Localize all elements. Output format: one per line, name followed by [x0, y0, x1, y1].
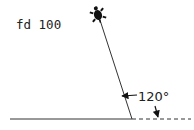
- turtle-angle-diagram: fd 100 120°: [0, 0, 194, 130]
- command-label: fd 100: [16, 17, 61, 32]
- angle-label: 120°: [138, 89, 169, 104]
- forward-path-line: [99, 17, 132, 119]
- turtle-icon: [89, 4, 108, 24]
- angle-arrow-to-extension: [155, 106, 158, 117]
